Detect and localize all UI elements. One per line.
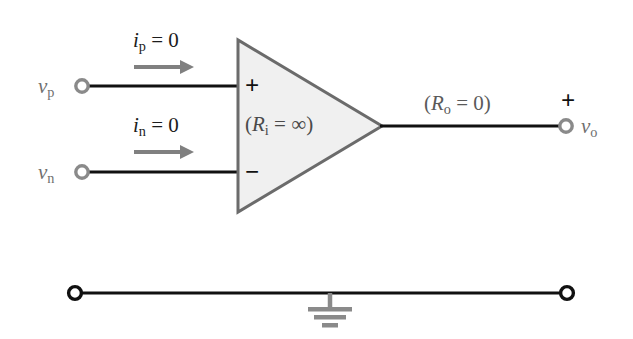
rout-base: R bbox=[431, 91, 444, 115]
vn-subscript: n bbox=[47, 170, 54, 186]
op-amp-circuit-figure: vp vn ip = 0 in = 0 + − (Ri = ∞) (Ro = 0… bbox=[0, 0, 633, 339]
rin-base: R bbox=[252, 112, 265, 136]
vn-label: vn bbox=[38, 162, 54, 185]
rin-equals: = bbox=[269, 112, 291, 136]
circuit-drawing-canvas bbox=[0, 0, 633, 339]
ip-current-arrow-icon bbox=[134, 60, 194, 74]
ip-equals-zero: = 0 bbox=[146, 28, 179, 52]
output-resistance-label: (Ro = 0) bbox=[424, 93, 491, 116]
in-current-label: in = 0 bbox=[133, 115, 179, 138]
in-equals-zero: = 0 bbox=[146, 113, 179, 137]
inverting-input-terminal[interactable] bbox=[76, 166, 88, 178]
vp-subscript: p bbox=[47, 84, 54, 100]
ground-symbol-icon bbox=[308, 293, 352, 328]
noninverting-plus-sign: + bbox=[245, 73, 259, 98]
noninverting-input-terminal[interactable] bbox=[76, 80, 88, 92]
vn-base: v bbox=[38, 160, 47, 184]
vo-subscript: o bbox=[590, 124, 597, 140]
rout-subscript: o bbox=[444, 101, 451, 117]
inverting-minus-sign: − bbox=[245, 159, 259, 184]
input-resistance-label: (Ri = ∞) bbox=[245, 114, 313, 137]
ip-subscript: p bbox=[139, 38, 146, 54]
ground-right-terminal[interactable] bbox=[561, 287, 574, 300]
in-subscript: n bbox=[139, 123, 146, 139]
ip-current-label: ip = 0 bbox=[133, 30, 179, 53]
output-plus-sign: + bbox=[561, 88, 575, 113]
vo-base: v bbox=[581, 114, 590, 138]
output-terminal[interactable] bbox=[560, 120, 572, 132]
rout-paren-open: ( bbox=[424, 91, 431, 115]
rin-value: ∞ bbox=[291, 112, 306, 136]
rout-value: 0 bbox=[473, 91, 484, 115]
rout-paren-close: ) bbox=[484, 91, 491, 115]
vp-label: vp bbox=[38, 76, 54, 99]
rout-equals: = bbox=[451, 91, 473, 115]
rin-paren-close: ) bbox=[306, 112, 313, 136]
ground-left-terminal[interactable] bbox=[69, 287, 82, 300]
vo-label: vo bbox=[581, 116, 597, 139]
vp-base: v bbox=[38, 74, 47, 98]
rin-paren-open: ( bbox=[245, 112, 252, 136]
in-current-arrow-icon bbox=[134, 145, 194, 159]
